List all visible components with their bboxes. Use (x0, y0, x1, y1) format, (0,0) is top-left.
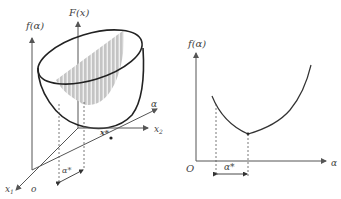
label-alpha-star-right: α* (224, 162, 235, 172)
label-alpha-axis: α (151, 99, 157, 109)
label-x1: x1 (5, 184, 14, 195)
x1-axis (16, 128, 78, 190)
label-xstar: x* (99, 127, 110, 137)
diagram-canvas: f(α) F(x) α x2 x1 o x* α* f(α) α O α* (0, 0, 341, 199)
right-2d-diagram: f(α) α O α* (186, 38, 337, 176)
label-x2: x2 (154, 124, 163, 135)
label-origin-left: o (31, 184, 37, 194)
left-3d-diagram: f(α) F(x) α x2 x1 o x* α* (5, 7, 163, 195)
label-f-alpha-right: f(α) (187, 38, 206, 49)
label-alpha-axis-right: α (331, 158, 337, 168)
minimum-point (109, 136, 112, 139)
label-alpha-star-left: α* (62, 166, 71, 175)
label-f-alpha: f(α) (25, 20, 44, 31)
label-F-x: F(x) (68, 7, 89, 18)
f-alpha-curve (212, 65, 311, 134)
alpha-axis (32, 109, 157, 170)
label-origin-right: O (186, 163, 194, 174)
